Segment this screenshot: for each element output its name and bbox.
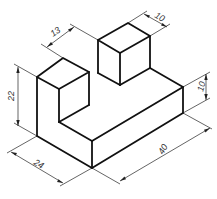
base-bottom-front-edge [92, 113, 183, 168]
base-right-back-edge [150, 68, 183, 87]
notch-bottom-edge [59, 105, 89, 122]
tall-block-bottom-right [120, 68, 150, 85]
dim-22-label: 22 [6, 91, 16, 102]
tall-block-top-face [98, 23, 150, 53]
dim-24-label: 24 [31, 157, 46, 171]
base-top-front-edge [92, 87, 183, 141]
tall-block-bottom-left [98, 73, 120, 85]
base-bottom-left-edge [37, 136, 92, 168]
base-top-left-edge [59, 122, 92, 141]
dim-10-top-label: 10 [153, 10, 167, 24]
dim-13-label: 13 [48, 25, 62, 39]
isometric-part-drawing: 10 13 22 10 24 40 [0, 0, 217, 199]
dim-40-label: 40 [156, 142, 170, 156]
left-block-top-face [37, 58, 89, 89]
